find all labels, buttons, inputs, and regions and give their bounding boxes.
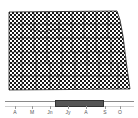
county-map xyxy=(0,0,138,96)
selected-range-bar[interactable] xyxy=(55,100,104,107)
month-label-apr[interactable]: A xyxy=(13,109,16,115)
month-label-sep[interactable]: S xyxy=(103,109,106,115)
month-label-oct[interactable]: O xyxy=(118,109,122,115)
month-label-may[interactable]: M xyxy=(30,109,34,115)
month-label-jun[interactable]: Jn xyxy=(47,109,52,115)
month-timeline[interactable]: A M Jn Jy A S O xyxy=(0,96,138,118)
month-label-jul[interactable]: Jy xyxy=(66,109,71,115)
map-svg xyxy=(0,0,138,96)
month-label-aug[interactable]: A xyxy=(84,109,87,115)
state-shape xyxy=(9,11,130,90)
